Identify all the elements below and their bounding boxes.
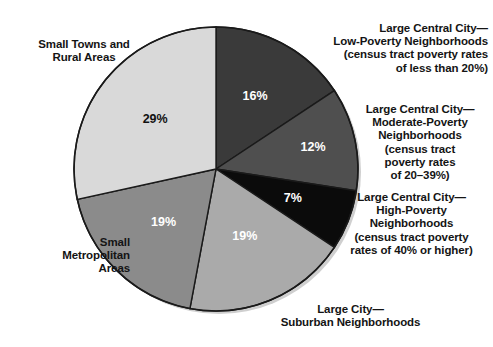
slice-label-small-metropolitan-areas: Small Metropolitan Areas: [8, 236, 130, 276]
slice-label-large-central-city-low-poverty: Large Central City— Low-Poverty Neighbor…: [270, 22, 488, 75]
slice-percent-label-12: 12%: [301, 140, 326, 154]
pie-chart-figure: 16% 12% 7% 19% 19% 29% Small Towns and R…: [0, 0, 493, 347]
slice-percent-label-19-metro: 19%: [151, 215, 176, 229]
slice-percent-label-29: 29%: [143, 112, 168, 126]
slice-percent-label-16: 16%: [242, 89, 267, 103]
slice-label-large-central-city-moderate-poverty: Large Central City— Moderate-Poverty Nei…: [352, 103, 488, 182]
slice-percent-label-7: 7%: [284, 191, 302, 205]
slice-label-large-city-suburban: Large City— Suburban Neighborhoods: [243, 303, 458, 329]
slice-label-large-central-city-high-poverty: Large Central City— High-Poverty Neighbo…: [334, 191, 489, 257]
slice-label-small-towns-rural-areas: Small Towns and Rural Areas: [14, 38, 154, 64]
slice-percent-label-19-suburban: 19%: [232, 229, 257, 243]
